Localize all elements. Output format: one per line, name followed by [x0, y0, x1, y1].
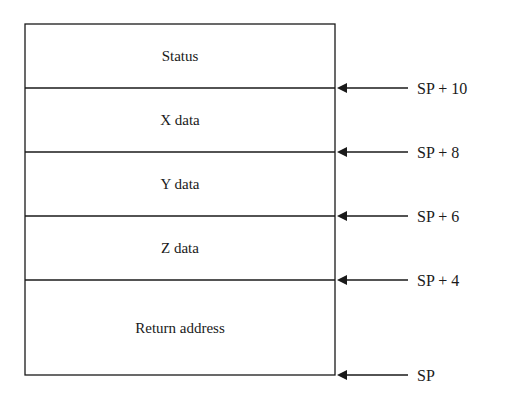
stack-cell-label: Z data: [161, 240, 199, 256]
stack-cell-label: Status: [162, 48, 199, 64]
stack-cell-label: Y data: [160, 176, 199, 192]
stack-cell-label: X data: [160, 112, 200, 128]
pointer-arrow: SP + 10: [337, 80, 467, 97]
arrow-head-icon: [337, 370, 347, 380]
pointer-arrow: SP + 4: [337, 272, 459, 289]
arrow-head-icon: [337, 275, 347, 285]
stack-cell-label: Return address: [135, 320, 225, 336]
pointer-arrow: SP + 6: [337, 208, 459, 225]
pointer-label: SP + 4: [417, 272, 459, 289]
pointer-label: SP + 6: [417, 208, 459, 225]
pointer-label: SP + 8: [417, 144, 459, 161]
arrow-head-icon: [337, 83, 347, 93]
arrow-head-icon: [337, 211, 347, 221]
pointer-label: SP + 10: [417, 80, 467, 97]
pointer-arrow: SP: [337, 367, 435, 384]
pointer-label: SP: [417, 367, 435, 384]
pointer-arrow: SP + 8: [337, 144, 459, 161]
stack-diagram: StatusX dataY dataZ dataReturn address S…: [0, 0, 507, 400]
arrow-head-icon: [337, 147, 347, 157]
